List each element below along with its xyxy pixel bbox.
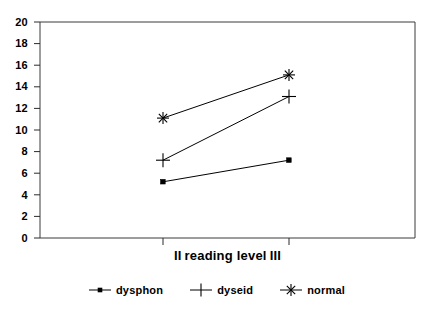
y-tick-label: 2 (2, 211, 28, 222)
y-tick-label: 16 (2, 60, 28, 71)
square-marker-icon (88, 283, 112, 297)
x-tick-label-left: II (174, 248, 182, 263)
marker-square (287, 158, 292, 163)
series-dysphon (161, 158, 292, 184)
y-tick-label: 12 (2, 103, 28, 114)
plus-marker-icon (189, 283, 213, 297)
y-tick-label: 8 (2, 146, 28, 157)
x-axis-title-row: IIreading levelIII (40, 248, 415, 263)
legend-label-dyseid: dyseid (217, 284, 253, 296)
legend-item-dysphon[interactable]: dysphon (88, 283, 163, 297)
y-tick-label: 10 (2, 125, 28, 136)
x-tick-label-right: III (270, 248, 281, 263)
plot-frame (40, 22, 415, 238)
y-tick-label: 4 (2, 190, 28, 201)
marker-plus (282, 90, 296, 104)
legend-item-dyseid[interactable]: dyseid (189, 283, 253, 297)
series-dyseid (156, 90, 296, 168)
marker-asterisk (283, 69, 295, 81)
legend-item-normal[interactable]: normal (279, 283, 345, 297)
series-normal (157, 69, 295, 124)
legend-label-normal: normal (307, 284, 345, 296)
chart-canvas (0, 0, 433, 315)
chart-legend: dysphon dyseid normal (0, 283, 433, 297)
legend-label-dysphon: dysphon (116, 284, 163, 296)
y-tick-label: 18 (2, 38, 28, 49)
y-tick-label: 0 (2, 233, 28, 244)
marker-asterisk (157, 112, 169, 124)
asterisk-marker-icon (279, 283, 303, 297)
marker-square (161, 179, 166, 184)
line-chart: 20 18 16 14 12 10 8 6 4 2 0 IIreading le… (0, 0, 433, 315)
x-axis-title: reading level (185, 248, 267, 263)
y-axis-ticks (34, 22, 40, 238)
x-axis-ticks (163, 238, 289, 245)
y-tick-label: 6 (2, 168, 28, 179)
y-tick-label: 14 (2, 81, 28, 92)
marker-plus (156, 153, 170, 167)
y-tick-label: 20 (2, 17, 28, 28)
